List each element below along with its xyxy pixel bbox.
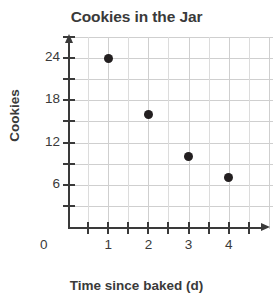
gridline-horizontal — [68, 164, 273, 165]
origin-label: 0 — [40, 237, 48, 252]
y-axis-tick-label: 24 — [24, 49, 60, 64]
data-point — [224, 173, 233, 182]
data-point — [104, 54, 113, 63]
gridline-horizontal — [68, 100, 273, 101]
gridline-vertical — [88, 37, 89, 229]
x-axis-line — [68, 227, 263, 229]
gridline-vertical — [209, 37, 210, 229]
gridline-horizontal — [68, 79, 273, 80]
x-axis-tick-label: 3 — [176, 237, 202, 252]
gridline-vertical — [249, 37, 250, 229]
plot-area: 61218241234 — [68, 37, 273, 229]
x-axis-title: Time since baked (d) — [0, 278, 273, 293]
gridline-horizontal — [68, 185, 273, 186]
x-axis-arrow-icon — [261, 223, 270, 231]
gridline-horizontal — [68, 37, 273, 38]
y-axis-tick-label: 12 — [24, 134, 60, 149]
gridline-vertical — [229, 37, 230, 229]
gridline-horizontal — [68, 58, 273, 59]
gridline-vertical — [148, 37, 149, 229]
data-point — [144, 110, 153, 119]
gridline-horizontal — [68, 143, 273, 144]
gridline-horizontal — [68, 206, 273, 207]
y-axis-tick-label: 18 — [24, 91, 60, 106]
gridline-vertical — [269, 37, 270, 229]
y-axis-line — [68, 40, 70, 229]
gridline-horizontal — [68, 121, 273, 122]
gridline-vertical — [168, 37, 169, 229]
gridline-vertical — [108, 37, 109, 229]
gridline-vertical — [128, 37, 129, 229]
y-axis-tick-label: 6 — [24, 176, 60, 191]
x-axis-tick-label: 4 — [216, 237, 242, 252]
gridline-vertical — [189, 37, 190, 229]
chart-figure: Cookies in the Jar Cookies Time since ba… — [0, 0, 273, 297]
data-point — [184, 152, 193, 161]
x-axis-tick-label: 1 — [95, 237, 121, 252]
chart-title: Cookies in the Jar — [0, 8, 273, 26]
x-axis-tick-label: 2 — [135, 237, 161, 252]
y-axis-arrow-icon — [65, 34, 73, 43]
y-axis-title: Cookies — [7, 71, 22, 161]
